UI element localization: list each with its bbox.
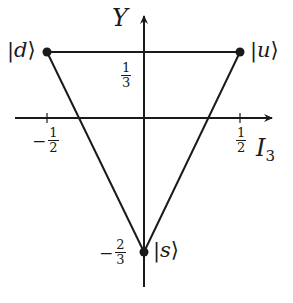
ket-s: |s⟩	[153, 238, 179, 262]
numerator: 1	[121, 61, 131, 76]
y-tick-label-one-third: 1 3	[119, 61, 131, 90]
x-tick-label-neg-half: − 1 2	[32, 126, 59, 155]
ket-s-angle: ⟩	[171, 238, 179, 262]
denominator: 3	[122, 76, 130, 90]
fraction: 2 3	[115, 238, 125, 267]
numerator: 2	[115, 238, 125, 253]
x-axis-label-subscript: 3	[265, 147, 275, 165]
x-tick-label-pos-half: 1 2	[234, 126, 246, 155]
sign: −	[32, 131, 46, 151]
numerator: 1	[48, 126, 58, 141]
sign: −	[99, 243, 113, 263]
ket-d-angle: ⟩	[28, 38, 36, 62]
numerator: 1	[236, 126, 246, 141]
denominator: 2	[237, 141, 245, 155]
x-axis-label: I3	[256, 134, 275, 165]
edge-u-s	[144, 52, 240, 252]
y-axis-label-text: Y	[112, 4, 128, 32]
point-d	[43, 48, 52, 57]
denominator: 3	[116, 253, 124, 267]
y-tick-label-neg-two-thirds: − 2 3	[99, 238, 126, 267]
y-axis-label: Y	[112, 4, 128, 32]
ket-u-name: u	[257, 38, 271, 62]
fraction: 1 2	[236, 126, 246, 155]
ket-u-angle: ⟩	[271, 38, 279, 62]
point-s	[140, 248, 149, 257]
ket-s-name: s	[160, 238, 171, 262]
ket-d-name: d	[14, 38, 27, 62]
fraction: 1 2	[48, 126, 58, 155]
ket-u: |u⟩	[250, 38, 279, 62]
point-u	[236, 48, 245, 57]
quark-triangle-diagram: Y I3 |d⟩ |u⟩ |s⟩ 1 3 − 1 2 1 2 −	[0, 0, 293, 303]
fraction: 1 3	[121, 61, 131, 90]
denominator: 2	[49, 141, 57, 155]
ket-d: |d⟩	[7, 38, 36, 62]
